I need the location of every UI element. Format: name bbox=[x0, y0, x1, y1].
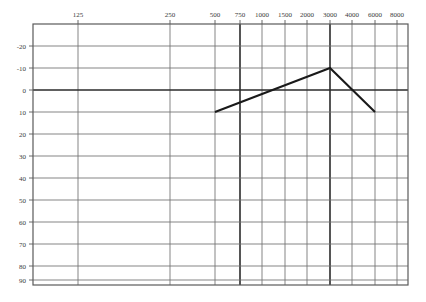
y-axis-tick-label: 50 bbox=[19, 197, 27, 205]
x-axis-tick-label: 500 bbox=[210, 11, 221, 19]
y-axis-tick-label: 20 bbox=[19, 131, 27, 139]
y-axis-tick-label: -20 bbox=[17, 43, 27, 51]
x-axis-tick-label: 125 bbox=[73, 11, 84, 19]
x-axis-tick-label: 8000 bbox=[390, 11, 405, 19]
y-axis-tick-label: 80 bbox=[19, 263, 27, 271]
y-axis-tick-label: 0 bbox=[23, 87, 27, 95]
x-axis-tick-label: 3000 bbox=[323, 11, 338, 19]
x-axis-tick-label: 750 bbox=[235, 11, 246, 19]
x-axis-tick-label: 1000 bbox=[255, 11, 270, 19]
y-axis-tick-label: 60 bbox=[19, 219, 27, 227]
x-axis-tick-label: 4000 bbox=[345, 11, 360, 19]
x-axis-tick-label: 250 bbox=[165, 11, 176, 19]
y-axis-tick-label: 10 bbox=[19, 109, 27, 117]
y-axis-tick-label: 40 bbox=[19, 175, 27, 183]
audiogram-chart: 1252505007501000150020003000400060008000… bbox=[0, 0, 426, 302]
x-axis-tick-label: 2000 bbox=[300, 11, 315, 19]
x-axis-tick-label: 6000 bbox=[368, 11, 383, 19]
x-axis-tick-label: 1500 bbox=[278, 11, 293, 19]
y-axis-tick-label: 90 bbox=[19, 277, 27, 285]
y-axis-tick-label: -10 bbox=[17, 65, 27, 73]
chart-canvas: 1252505007501000150020003000400060008000… bbox=[0, 0, 426, 302]
chart-background bbox=[0, 0, 426, 302]
y-axis-tick-label: 30 bbox=[19, 153, 27, 161]
y-axis-tick-label: 70 bbox=[19, 241, 27, 249]
